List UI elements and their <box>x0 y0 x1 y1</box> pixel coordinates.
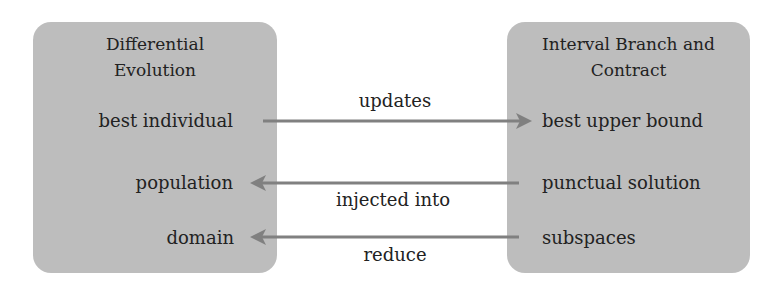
reduce-arrow <box>250 229 519 245</box>
reduce-label: reduce <box>340 244 450 266</box>
updates-label: updates <box>340 90 450 112</box>
injected-into-label: injected into <box>318 189 468 211</box>
updates-arrow <box>263 113 532 129</box>
arrows-layer <box>0 0 784 283</box>
